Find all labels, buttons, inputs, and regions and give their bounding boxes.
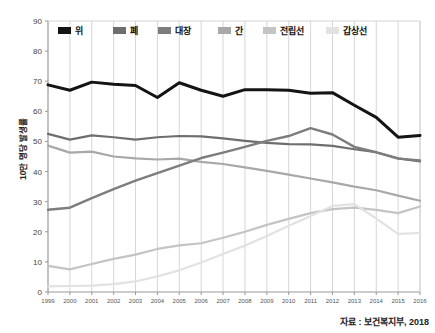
y-tick-label: 60 — [33, 107, 42, 116]
x-tick-label: 2011 — [304, 298, 318, 304]
x-tick-label: 2010 — [282, 298, 296, 304]
legend-label-전립선: 전립선 — [280, 25, 304, 36]
series-line-폐 — [48, 134, 420, 161]
source-note: 자료 : 보건복지부, 2018 — [340, 315, 429, 328]
cancer-incidence-line-chart: 0102030405060708090 19992000200120022003… — [0, 0, 435, 333]
x-tick-label: 2006 — [194, 298, 208, 304]
y-tick-label: 50 — [33, 137, 42, 146]
y-tick-label: 20 — [33, 228, 42, 237]
legend-swatch-폐 — [113, 27, 126, 34]
y-axis-title: 10만 명당 발생률 — [16, 94, 28, 204]
series-line-위 — [48, 82, 420, 137]
legend-swatch-대장 — [158, 27, 171, 34]
legend-swatch-위 — [58, 27, 71, 34]
legend-swatch-간 — [218, 27, 231, 34]
data-series-group — [48, 82, 420, 286]
y-tick-label: 70 — [33, 77, 42, 86]
series-line-갑상선 — [48, 204, 420, 286]
y-tick-label: 30 — [33, 198, 42, 207]
legend-label-간: 간 — [235, 25, 244, 36]
legend-label-폐: 폐 — [130, 25, 138, 36]
x-tick-label: 2000 — [63, 298, 77, 304]
x-tick-label: 2013 — [348, 298, 362, 304]
legend-swatch-갑상선 — [326, 27, 339, 34]
x-tick-label: 2004 — [151, 298, 165, 304]
chart-legend: 위폐대장간전립선갑상선 — [58, 25, 367, 36]
y-axis-ticks: 0102030405060708090 — [33, 17, 48, 297]
x-tick-label: 2007 — [216, 298, 230, 304]
chart-figure: 0102030405060708090 19992000200120022003… — [0, 0, 435, 333]
x-tick-label: 2001 — [85, 298, 99, 304]
x-tick-label: 2002 — [107, 298, 121, 304]
x-tick-label: 2014 — [370, 298, 384, 304]
x-tick-label: 2003 — [129, 298, 143, 304]
legend-label-갑상선: 갑상선 — [343, 25, 367, 36]
legend-label-위: 위 — [75, 25, 83, 36]
x-tick-label: 2009 — [260, 298, 274, 304]
plot-frame — [48, 21, 420, 292]
y-tick-label: 40 — [33, 168, 42, 177]
y-tick-label: 90 — [33, 17, 42, 26]
legend-label-대장: 대장 — [175, 25, 192, 36]
x-tick-label: 2016 — [413, 298, 427, 304]
y-tick-label: 0 — [38, 288, 43, 297]
x-tick-label: 2012 — [326, 298, 340, 304]
x-axis-ticks: 1999200020012002200320042005200620072008… — [41, 292, 427, 304]
x-tick-label: 2008 — [238, 298, 252, 304]
series-line-전립선 — [48, 206, 420, 269]
legend-swatch-전립선 — [263, 27, 276, 34]
x-tick-label: 2015 — [391, 298, 405, 304]
y-tick-label: 10 — [33, 258, 42, 267]
gridlines-group — [48, 21, 420, 292]
x-tick-label: 2005 — [173, 298, 187, 304]
x-tick-label: 1999 — [41, 298, 55, 304]
y-tick-label: 80 — [33, 47, 42, 56]
